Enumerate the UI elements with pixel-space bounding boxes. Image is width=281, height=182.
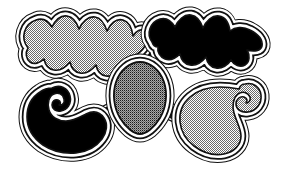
shape-center-shield-blob [114,62,166,134]
abstract-blob-illustration [0,0,281,182]
illustration-canvas [0,0,281,182]
shape-top-right-blob [149,15,262,68]
